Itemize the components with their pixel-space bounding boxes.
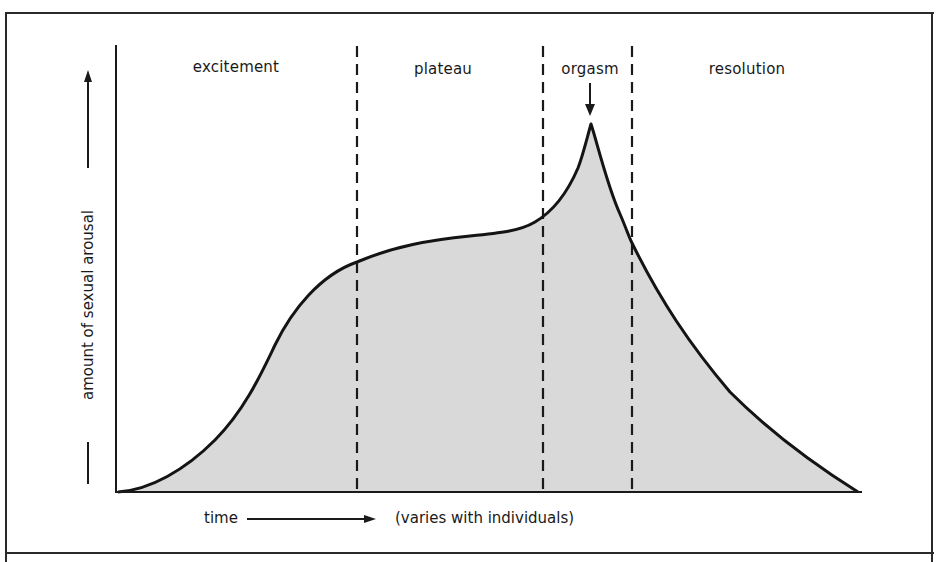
y-axis-label: amount of sexual arousal	[79, 210, 97, 400]
peak-arrow-icon	[585, 83, 595, 116]
phase-label-excitement: excitement	[193, 58, 279, 76]
arousal-area-fill	[118, 124, 858, 492]
x-axis-note: (varies with individuals)	[395, 509, 574, 527]
phase-label-plateau: plateau	[414, 60, 472, 78]
phase-label-orgasm: orgasm	[561, 60, 618, 78]
phase-label-resolution: resolution	[709, 60, 785, 78]
chart-canvas	[0, 0, 938, 562]
x-axis-arrow-icon	[247, 515, 376, 523]
arousal-phase-chart: excitement plateau orgasm resolution amo…	[0, 0, 938, 562]
x-axis-label: time	[204, 509, 238, 527]
